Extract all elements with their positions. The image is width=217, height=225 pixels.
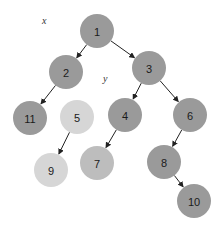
edge-1-3 (111, 41, 134, 58)
node-label: 4 (122, 110, 128, 122)
tree-node-10: 10 (177, 184, 211, 218)
tree-node-7: 7 (80, 146, 114, 180)
node-label: 9 (48, 165, 54, 177)
tree-node-9: 9 (34, 153, 68, 187)
node-label: 7 (94, 158, 100, 170)
node-label: 2 (63, 67, 69, 79)
node-label: 3 (146, 63, 152, 75)
nodes-layer: 1231154697810 (13, 14, 211, 218)
node-label: 8 (161, 157, 167, 169)
node-label: 10 (188, 196, 200, 208)
pointer-label-x: x (41, 15, 47, 26)
tree-node-11: 11 (13, 101, 47, 135)
pointer-label-y: y (102, 73, 108, 84)
tree-node-5: 5 (60, 100, 94, 134)
tree-diagram: 1231154697810 xy (0, 0, 217, 225)
edge-2-11 (41, 85, 55, 103)
node-label: 11 (24, 113, 35, 125)
edge-1-2 (77, 45, 87, 58)
tree-node-6: 6 (173, 98, 207, 132)
tree-node-2: 2 (49, 55, 83, 89)
edge-3-4 (133, 83, 141, 99)
tree-node-1: 1 (80, 14, 114, 48)
node-label: 5 (74, 112, 80, 124)
edge-4-7 (106, 130, 116, 148)
tree-node-8: 8 (147, 145, 181, 179)
tree-node-4: 4 (108, 98, 142, 132)
edge-5-9 (59, 132, 70, 154)
edge-6-8 (173, 130, 182, 146)
node-label: 1 (94, 26, 100, 38)
tree-node-3: 3 (132, 51, 166, 85)
edge-8-10 (174, 175, 183, 186)
edge-3-6 (160, 81, 178, 102)
node-label: 6 (187, 110, 193, 122)
